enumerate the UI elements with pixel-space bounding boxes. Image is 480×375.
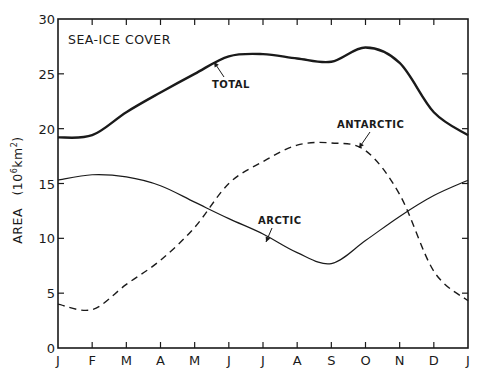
series-line-total xyxy=(58,48,468,138)
x-tick-label: S xyxy=(327,353,335,368)
plot-border xyxy=(58,19,468,348)
x-tick-label: D xyxy=(429,353,439,368)
x-tick-label: A xyxy=(293,353,302,368)
x-tick-label: J xyxy=(465,353,470,368)
y-tick-label: 0 xyxy=(47,341,55,356)
y-tick-label: 20 xyxy=(38,122,55,137)
y-tick-label: 15 xyxy=(38,177,55,192)
axis-ticks: JFMAMJJASONDJ051015202530 xyxy=(38,12,469,368)
x-tick-label: J xyxy=(260,353,265,368)
chart-title: SEA-ICE COVER xyxy=(68,32,171,47)
y-tick-label: 30 xyxy=(38,12,55,27)
x-tick-label: M xyxy=(121,353,132,368)
series-label-arctic: ARCTIC xyxy=(258,215,302,226)
x-tick-label: M xyxy=(189,353,200,368)
y-tick-label: 5 xyxy=(47,286,55,301)
x-tick-label: J xyxy=(226,353,231,368)
plot-frame xyxy=(58,19,468,348)
x-tick-label: A xyxy=(156,353,165,368)
x-tick-label: N xyxy=(395,353,405,368)
y-axis-label: AREA (106km2) xyxy=(10,136,25,243)
series-line-antarctic xyxy=(58,142,468,310)
sea-ice-chart: JFMAMJJASONDJ051015202530 TOTALARCTICANT… xyxy=(0,0,480,375)
x-tick-label: J xyxy=(55,353,60,368)
y-tick-label: 25 xyxy=(38,67,55,82)
series-labels: TOTALARCTICANTARCTIC xyxy=(212,62,404,242)
series-label-antarctic: ANTARCTIC xyxy=(337,119,404,130)
x-tick-label: F xyxy=(88,353,95,368)
series-lines xyxy=(58,48,468,311)
x-tick-label: O xyxy=(360,353,370,368)
series-label-total: TOTAL xyxy=(212,79,250,90)
y-tick-label: 10 xyxy=(38,231,55,246)
